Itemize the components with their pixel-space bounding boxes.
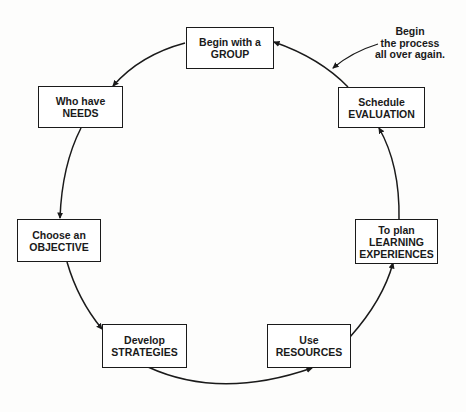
node-learning-line1: To plan <box>378 224 415 236</box>
node-strategies: Develop STRATEGIES <box>102 324 187 368</box>
annotation-line1: Begin <box>370 26 450 38</box>
node-objective-line2: OBJECTIVE <box>29 241 89 253</box>
node-learning-line3: EXPERIENCES <box>359 248 434 260</box>
node-resources-line1: Use <box>299 334 318 346</box>
node-resources: Use RESOURCES <box>267 324 351 368</box>
node-strategies-line2: STRATEGIES <box>111 346 177 358</box>
arrow-group-to-needs <box>113 43 185 86</box>
node-needs: Who have NEEDS <box>38 86 123 128</box>
node-group-line2: GROUP <box>211 48 250 60</box>
node-objective-line1: Choose an <box>32 229 86 241</box>
restart-annotation: Begin the process all over again. <box>370 26 450 61</box>
arrow-resources-to-learning <box>350 263 393 337</box>
node-objective: Choose an OBJECTIVE <box>17 219 101 262</box>
cycle-diagram: Begin with a GROUP Who have NEEDS Choose… <box>0 0 466 412</box>
arrow-strategies-to-resources <box>148 367 312 384</box>
node-group-line1: Begin with a <box>199 36 261 48</box>
node-evaluation: Schedule EVALUATION <box>338 87 425 128</box>
node-resources-line2: RESOURCES <box>276 346 343 358</box>
node-needs-line2: NEEDS <box>62 107 98 119</box>
node-group: Begin with a GROUP <box>186 27 274 69</box>
node-strategies-line1: Develop <box>124 334 165 346</box>
arrow-objective-to-strategies <box>67 262 102 329</box>
node-evaluation-line2: EVALUATION <box>348 108 415 120</box>
node-evaluation-line1: Schedule <box>358 96 405 108</box>
annotation-line3: all over again. <box>370 49 450 61</box>
node-learning-line2: LEARNING <box>369 236 424 248</box>
arrow-needs-to-objective <box>60 128 81 218</box>
node-needs-line1: Who have <box>56 95 106 107</box>
arrow-learning-to-evaluation <box>379 128 399 219</box>
node-learning: To plan LEARNING EXPERIENCES <box>355 219 438 264</box>
